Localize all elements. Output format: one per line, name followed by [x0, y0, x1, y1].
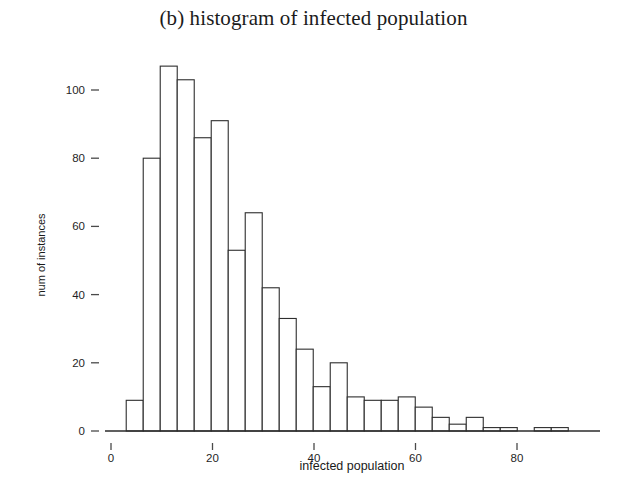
- histogram-svg: 020406080 020406080100 infected populati…: [0, 0, 627, 490]
- y-axis-title: num of instances: [35, 213, 47, 297]
- histogram-bar: [143, 158, 160, 431]
- histogram-bar: [279, 318, 296, 431]
- plot-area: 020406080 020406080100 infected populati…: [0, 0, 627, 490]
- histogram-bar: [262, 288, 279, 431]
- histogram-bar: [228, 250, 245, 431]
- y-tick-label: 100: [66, 84, 85, 96]
- histogram-bar: [398, 397, 415, 431]
- y-tick-label: 60: [72, 220, 85, 232]
- histogram-bar: [313, 387, 330, 431]
- histogram-bar: [211, 121, 228, 431]
- histogram-bar: [126, 400, 143, 431]
- histogram-bar: [330, 363, 347, 431]
- x-axis-title: infected population: [300, 459, 405, 473]
- bars-group: [126, 66, 568, 431]
- histogram-bar: [160, 66, 177, 431]
- y-tick-label: 0: [79, 425, 85, 437]
- histogram-bar: [415, 407, 432, 431]
- histogram-bar: [245, 213, 262, 431]
- y-tick-label: 20: [72, 357, 85, 369]
- histogram-bar: [296, 349, 313, 431]
- histogram-bar: [381, 400, 398, 431]
- y-axis-ticks: 020406080100: [66, 84, 99, 437]
- histogram-bar: [466, 417, 483, 431]
- x-tick-label: 20: [206, 452, 219, 464]
- histogram-bar: [364, 400, 381, 431]
- histogram-bar: [177, 80, 194, 431]
- y-tick-label: 40: [72, 289, 85, 301]
- x-tick-label: 60: [409, 452, 422, 464]
- histogram-bar: [432, 417, 449, 431]
- histogram-bar: [347, 397, 364, 431]
- y-tick-label: 80: [72, 152, 85, 164]
- histogram-figure: (b) histogram of infected population 020…: [0, 0, 627, 490]
- x-tick-label: 0: [108, 452, 114, 464]
- histogram-bar: [449, 424, 466, 431]
- x-tick-label: 80: [511, 452, 524, 464]
- histogram-bar: [194, 138, 211, 431]
